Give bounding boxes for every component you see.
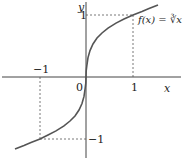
x-axis-label: x <box>164 82 171 95</box>
tick-x-neg1: −1 <box>33 63 49 76</box>
tick-x-1: 1 <box>131 81 138 94</box>
function-label: f(x) = ∛x <box>137 13 182 25</box>
tick-y-1: 1 <box>80 9 87 22</box>
cube-root-graph: y x 0 −1 1 1 −1 f(x) = ∛x <box>0 0 183 158</box>
tick-y-neg1: −1 <box>88 133 104 146</box>
origin-label: 0 <box>76 81 83 94</box>
